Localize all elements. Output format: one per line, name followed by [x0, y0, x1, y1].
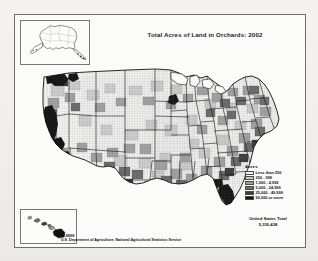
source-agency-line: U.S. Department of Agriculture, National…	[61, 238, 181, 242]
legend-swatch	[245, 186, 254, 190]
legend-label: 50,000 or more	[256, 196, 283, 200]
legend-swatch	[245, 191, 254, 195]
us-total-block: United States Total 5,330,438	[240, 216, 296, 227]
legend-swatch	[245, 181, 254, 185]
us-total-value: 5,330,438	[240, 222, 296, 227]
source-block: 02-M098 U.S. Department of Agriculture, …	[61, 234, 181, 242]
legend-swatch	[245, 196, 254, 200]
legend-swatch	[245, 176, 254, 180]
legend-heading: Acres	[245, 164, 295, 169]
map-legend: Acres Less than 250 250 - 999 1,000 - 4,…	[245, 164, 295, 201]
legend-row: 50,000 or more	[245, 196, 295, 201]
us-map-svg	[21, 55, 301, 235]
legend-swatch	[245, 171, 254, 175]
map-title: Total Acres of Land in Orchards: 2002	[120, 31, 290, 38]
map-frame: Total Acres of Land in Orchards: 2002	[14, 14, 306, 248]
map-body	[21, 55, 301, 235]
us-county-choropleth	[21, 55, 301, 235]
